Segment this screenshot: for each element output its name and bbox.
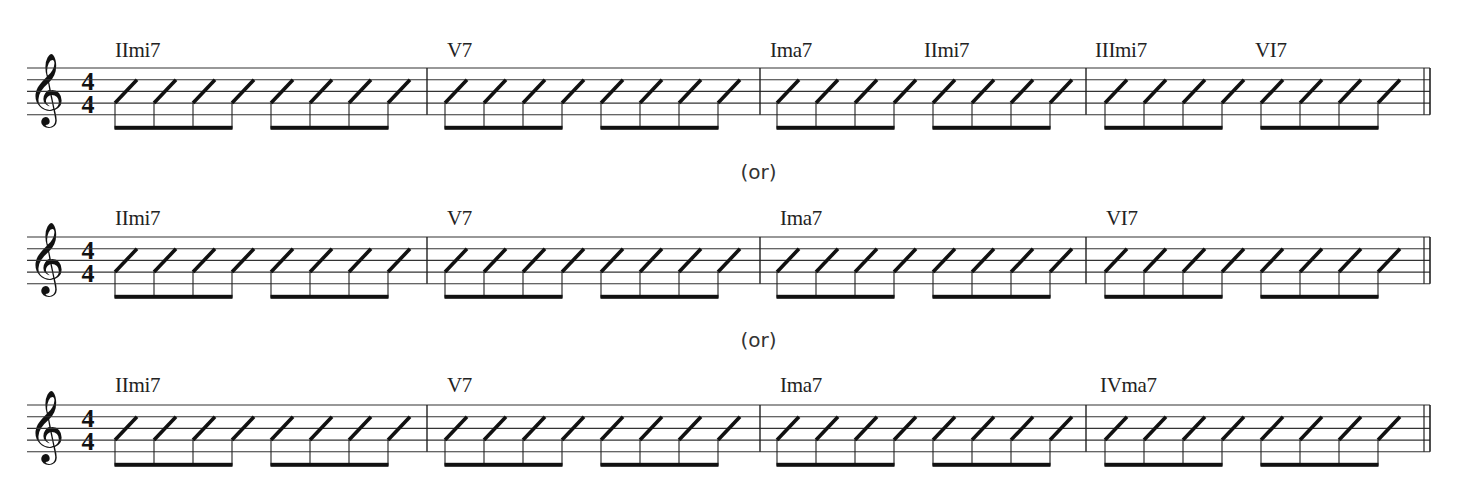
beam: [933, 463, 1051, 467]
beam: [271, 463, 389, 467]
beam: [1261, 463, 1379, 467]
beam: [445, 463, 563, 467]
beam: [601, 463, 719, 467]
beam: [115, 463, 233, 467]
lead-sheet: IImi7 V7 Ima7 IImi7 IIImi7 VI7 𝄞 4 4 (or…: [0, 0, 1461, 494]
staff-notation: [0, 0, 1461, 494]
beam: [1105, 463, 1223, 467]
beam: [777, 463, 895, 467]
